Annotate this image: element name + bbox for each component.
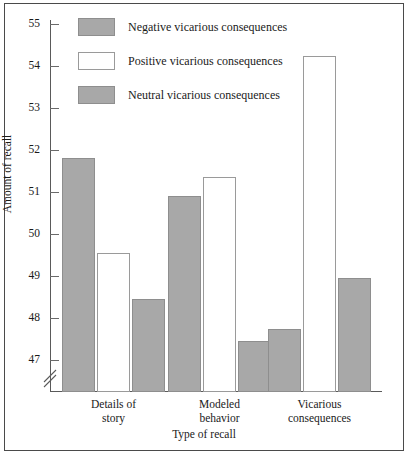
x-axis-category-label-line: Details of [54, 398, 174, 412]
figure-border-bottom [4, 450, 404, 451]
legend-label: Negative vicarious consequences [128, 20, 287, 35]
y-axis-tick-label: 53 [14, 102, 40, 114]
legend-swatch [78, 52, 115, 70]
y-axis-tick-label: 55 [14, 18, 40, 30]
bar [168, 196, 201, 392]
y-axis-tick-label: 49 [14, 270, 40, 282]
x-axis-title: Type of recall [0, 428, 408, 440]
legend-item: Neutral vicarious consequences [78, 84, 287, 106]
x-axis-category-label-line: consequences [260, 412, 380, 426]
figure-border-top [4, 3, 404, 4]
bar [338, 278, 371, 392]
legend-item: Negative vicarious consequences [78, 16, 287, 38]
figure-border-right [403, 3, 404, 451]
legend-label: Neutral vicarious consequences [128, 88, 280, 103]
legend-swatch [78, 18, 115, 36]
y-axis-tick-label: 47 [14, 354, 40, 366]
y-axis-tick-label: 48 [14, 312, 40, 324]
bar [303, 56, 336, 393]
y-axis-tick-label: 51 [14, 186, 40, 198]
x-axis-category-label: Vicariousconsequences [260, 398, 380, 425]
y-axis-tick-label: 50 [14, 228, 40, 240]
x-axis-category-label: Details ofstory [54, 398, 174, 425]
bar [97, 253, 130, 392]
y-axis-title: Amount of recall [1, 89, 13, 259]
y-axis-tick-label: 54 [14, 60, 40, 72]
bar [62, 158, 95, 392]
legend-item: Positive vicarious consequences [78, 50, 287, 72]
bar [238, 341, 271, 392]
bar [203, 177, 236, 392]
x-axis-category-label-line: story [54, 412, 174, 426]
x-axis-category-label-line: Vicarious [260, 398, 380, 412]
bar [132, 299, 165, 392]
figure: 474849505152535455 Details ofstoryModele… [0, 0, 408, 454]
chart-legend: Negative vicarious consequencesPositive … [78, 16, 287, 118]
legend-swatch [78, 86, 115, 104]
legend-label: Positive vicarious consequences [128, 54, 283, 69]
bar [268, 329, 301, 393]
y-axis-tick-label: 52 [14, 144, 40, 156]
